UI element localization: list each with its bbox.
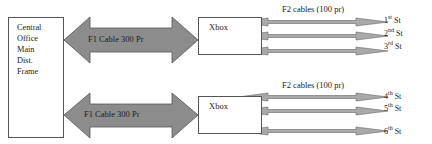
xbox-label: Xbox bbox=[209, 22, 228, 32]
f2-cables-label-top: F2 cables (100 pr) bbox=[282, 4, 344, 14]
central-office-box: Central Office Main Dist. Frame bbox=[8, 17, 64, 138]
f1-cable-label-top: F1 Cable 300 Pr bbox=[88, 34, 144, 44]
central-office-line: Frame bbox=[17, 66, 63, 77]
street-label-2: 2nd St bbox=[384, 29, 403, 39]
xbox-label: Xbox bbox=[209, 101, 228, 111]
central-office-line: Office bbox=[17, 33, 63, 44]
street-label-5: 5th St bbox=[384, 104, 401, 114]
street-label-6: 6th St bbox=[384, 127, 401, 137]
xbox-top: Xbox bbox=[198, 17, 262, 55]
street-label-4: 4th St bbox=[384, 92, 401, 102]
street-label-3: 3rd St bbox=[384, 42, 402, 52]
street-label-1: 1st St bbox=[384, 16, 401, 26]
f1-cable-label-bottom: F1 Cable 300 Pr bbox=[84, 109, 140, 119]
central-office-line: Main bbox=[17, 44, 63, 55]
central-office-line: Dist. bbox=[17, 55, 63, 66]
central-office-line: Central bbox=[17, 22, 63, 33]
f2-cables-label-bottom: F2 cables (100 pr) bbox=[282, 80, 344, 90]
xbox-bottom: Xbox bbox=[198, 96, 262, 134]
